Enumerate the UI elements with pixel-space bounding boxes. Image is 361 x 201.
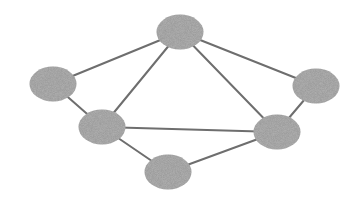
- nodes-layer: [30, 15, 340, 190]
- node-top: [157, 15, 204, 50]
- node-right-mid: [254, 115, 301, 150]
- node-bottom: [145, 155, 192, 190]
- node-left: [30, 67, 77, 102]
- edges-layer: [53, 32, 316, 172]
- edge-mid-left-right-mid: [102, 127, 277, 132]
- node-mid-left: [79, 110, 126, 145]
- node-right: [293, 69, 340, 104]
- edge-top-right-mid: [180, 32, 277, 132]
- network-graph-diagram: [0, 0, 361, 201]
